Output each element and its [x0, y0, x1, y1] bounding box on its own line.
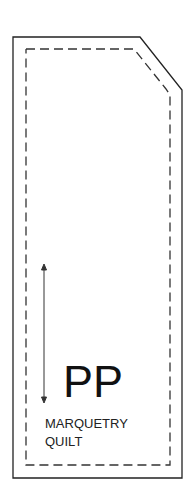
cut-line-outline	[13, 37, 182, 478]
piece-label-line1: MARQUETRY	[45, 417, 128, 431]
piece-label-line2: QUILT	[45, 435, 82, 449]
piece-initials: PP	[63, 359, 123, 404]
grain-arrow-icon	[42, 264, 47, 403]
